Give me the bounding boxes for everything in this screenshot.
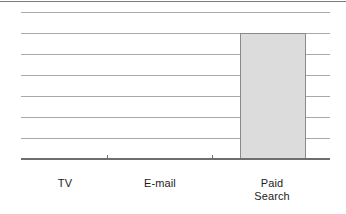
gridline-8 xyxy=(21,12,330,13)
x-tick-label-tv: TV xyxy=(35,177,95,190)
bar-chart-figure: TV E-mail Paid Search xyxy=(0,0,346,214)
bar-paid-search[interactable] xyxy=(240,33,306,159)
x-axis-tick-2 xyxy=(212,155,213,159)
x-axis-line xyxy=(21,158,330,160)
x-axis-tick-1 xyxy=(107,155,108,159)
x-tick-label-paid-search: Paid Search xyxy=(242,177,302,203)
plot-area xyxy=(21,0,330,160)
x-tick-label-email: E-mail xyxy=(130,177,190,190)
